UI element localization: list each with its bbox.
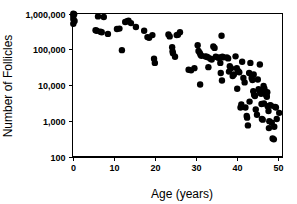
data-point (247, 60, 253, 66)
data-point (95, 13, 101, 19)
data-point (71, 18, 77, 24)
y-tick-label: 1,000 (43, 117, 66, 127)
y-tick-label: 100,000 (33, 45, 66, 55)
data-point (254, 112, 260, 118)
data-point (197, 81, 203, 87)
data-point (250, 71, 256, 77)
y-axis-title: Number of Follicles (1, 35, 15, 138)
data-point (261, 100, 267, 106)
data-point (260, 116, 266, 122)
data-point (101, 14, 107, 20)
data-point (141, 28, 147, 34)
data-point (273, 104, 279, 110)
x-tick-label: 0 (71, 163, 76, 173)
data-point (205, 64, 211, 70)
x-axis-title: Age (years) (151, 187, 213, 201)
x-tick-label: 10 (109, 163, 119, 173)
y-tick-label: 10,000 (38, 81, 66, 91)
data-point (217, 60, 223, 66)
data-point (105, 31, 111, 37)
data-point (252, 93, 258, 99)
data-point (226, 68, 232, 74)
data-point (218, 33, 224, 39)
data-point (166, 33, 172, 39)
data-point (234, 86, 240, 92)
data-point (133, 24, 139, 30)
data-point (218, 70, 224, 76)
data-point (276, 110, 282, 116)
data-point (266, 125, 272, 131)
data-point (211, 45, 217, 51)
data-point (232, 53, 238, 59)
data-point (237, 104, 243, 110)
data-point (245, 122, 251, 128)
data-point (152, 60, 158, 66)
y-tick-label: 100 (50, 153, 65, 163)
data-point (172, 54, 178, 60)
data-point (191, 65, 197, 71)
data-point (119, 47, 125, 53)
data-point (271, 136, 277, 142)
x-tick-label: 40 (232, 163, 242, 173)
data-point (225, 55, 231, 61)
data-point (244, 114, 250, 120)
chart-canvas: 01020304050 1001,00010,000100,0001,000,0… (0, 0, 297, 204)
data-point (239, 59, 245, 65)
x-tick-label: 20 (150, 163, 160, 173)
x-tick-label: 30 (191, 163, 201, 173)
x-axis-tick-marks (74, 157, 279, 161)
data-point (149, 32, 155, 38)
y-tick-label: 1,000,000 (25, 10, 65, 20)
data-point (71, 11, 77, 17)
data-point-series (70, 11, 282, 143)
data-point (241, 79, 247, 85)
data-point (257, 61, 263, 67)
data-point (99, 29, 105, 35)
data-point (274, 116, 280, 122)
data-point (219, 77, 225, 83)
y-axis-tick-marks (69, 15, 73, 158)
data-point (194, 42, 200, 48)
data-point (116, 25, 122, 31)
x-axis-tick-labels: 01020304050 (71, 163, 284, 173)
data-point (265, 108, 271, 114)
scatter-plot-figure: 01020304050 1001,00010,000100,0001,000,0… (0, 0, 297, 204)
y-axis-tick-labels: 1001,00010,000100,0001,000,000 (25, 10, 65, 163)
data-point (271, 123, 277, 129)
data-point (255, 76, 261, 82)
data-point (177, 29, 183, 35)
data-point (264, 89, 270, 95)
data-point (246, 98, 252, 104)
x-tick-label: 50 (273, 163, 283, 173)
